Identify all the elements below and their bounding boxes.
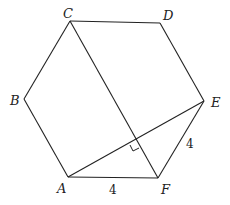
right-angle-marker xyxy=(130,145,139,151)
side-cd xyxy=(70,21,160,23)
vertex-label-e: E xyxy=(210,95,221,110)
hexagon-diagram: C D B E A F 4 4 xyxy=(0,0,230,205)
side-length-af: 4 xyxy=(109,183,117,197)
diagonal-cf xyxy=(70,21,158,178)
side-length-ef: 4 xyxy=(186,137,194,151)
vertex-label-c: C xyxy=(63,6,73,21)
vertex-label-d: D xyxy=(162,8,174,23)
side-de xyxy=(160,23,204,101)
vertex-label-f: F xyxy=(160,182,171,197)
vertex-label-a: A xyxy=(56,181,66,196)
side-bc xyxy=(24,21,70,99)
vertex-label-b: B xyxy=(9,93,20,108)
side-ab xyxy=(24,99,68,177)
diagonal-ae xyxy=(68,101,204,177)
side-ef xyxy=(158,101,204,178)
side-fa xyxy=(68,177,158,178)
